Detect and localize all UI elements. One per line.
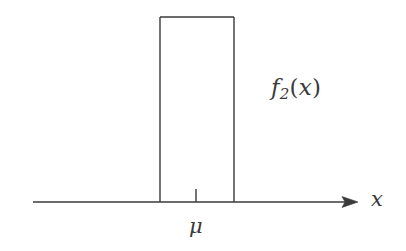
function-label-subscript: 2 (280, 85, 290, 103)
function-label-paren-open: ( (289, 74, 298, 100)
function-label-paren-close: ) (312, 74, 321, 100)
mean-tick-label: μ (189, 216, 203, 237)
uniform-distribution-diagram (0, 0, 406, 251)
figure-container: f2(x) μ x (0, 0, 406, 251)
function-label-name: f (271, 74, 280, 100)
function-label: f2(x) (271, 76, 321, 102)
x-axis-label: x (371, 189, 383, 210)
function-label-argument: x (299, 74, 312, 100)
